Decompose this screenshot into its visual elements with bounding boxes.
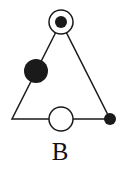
figure-label: B (0, 138, 120, 166)
markers-group (24, 10, 116, 131)
left-edge-large-dot-marker (24, 59, 48, 83)
bottom-edge-ring-marker (49, 107, 73, 131)
bottom-right-dot-marker (104, 113, 116, 125)
apex-dot-marker (55, 16, 67, 28)
